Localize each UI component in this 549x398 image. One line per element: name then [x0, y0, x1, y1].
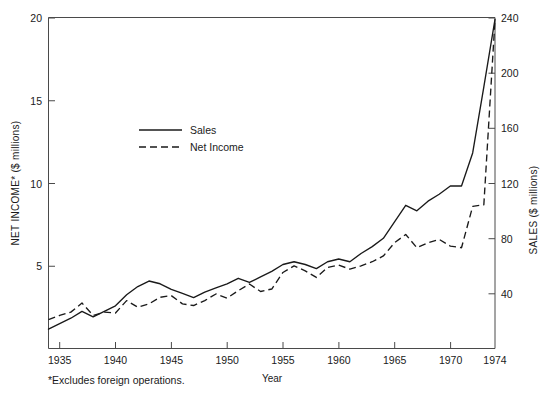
y-tick-label-20: 20 — [30, 12, 42, 24]
y-tick-label-5: 5 — [36, 260, 42, 272]
legend-label-net-income: Net Income — [190, 141, 244, 153]
y2-tick-label-120: 120 — [501, 178, 519, 190]
chart-figure: 20 15 10 5 NET INCOME* ($ millions) 240 … — [0, 0, 549, 398]
x-tick-label-1940: 1940 — [104, 354, 128, 366]
y-axis-left-ticks — [49, 18, 56, 266]
series-line-sales — [49, 19, 496, 329]
x-tick-label-1965: 1965 — [383, 354, 407, 366]
x-tick-label-1955: 1955 — [271, 354, 295, 366]
x-tick-label-1970: 1970 — [439, 354, 463, 366]
x-axis-ticks — [60, 342, 451, 349]
y2-tick-label-160: 160 — [501, 122, 519, 134]
chart-legend: Sales Net Income — [139, 124, 244, 153]
y-tick-label-10: 10 — [30, 178, 42, 190]
x-axis-labels: 1935 1940 1945 1950 1955 1960 1965 1970 … — [48, 354, 507, 366]
series-line-net-income — [49, 20, 496, 320]
y-axis-right-title: SALES ($ millions) — [528, 166, 539, 255]
y2-tick-label-240: 240 — [501, 12, 519, 24]
chart-canvas: 20 15 10 5 NET INCOME* ($ millions) 240 … — [0, 0, 549, 398]
y-axis-right-ticks — [489, 18, 496, 294]
y2-tick-label-80: 80 — [501, 233, 513, 245]
y-tick-label-15: 15 — [30, 95, 42, 107]
plot-frame — [49, 18, 496, 349]
x-axis-title: Year — [262, 373, 283, 384]
x-tick-label-1935: 1935 — [48, 354, 72, 366]
y-axis-right-labels: 240 200 160 120 80 40 — [501, 12, 519, 300]
legend-label-sales: Sales — [190, 124, 216, 136]
y-axis-left-title: NET INCOME* ($ millions) — [10, 121, 21, 246]
chart-footnote: *Excludes foreign operations. — [48, 374, 185, 386]
y2-tick-label-40: 40 — [501, 288, 513, 300]
x-tick-label-1950: 1950 — [216, 354, 240, 366]
x-tick-label-1974: 1974 — [483, 354, 507, 366]
x-tick-label-1960: 1960 — [327, 354, 351, 366]
y-axis-left-labels: 20 15 10 5 — [30, 12, 42, 272]
y2-tick-label-200: 200 — [501, 67, 519, 79]
x-tick-label-1945: 1945 — [160, 354, 184, 366]
